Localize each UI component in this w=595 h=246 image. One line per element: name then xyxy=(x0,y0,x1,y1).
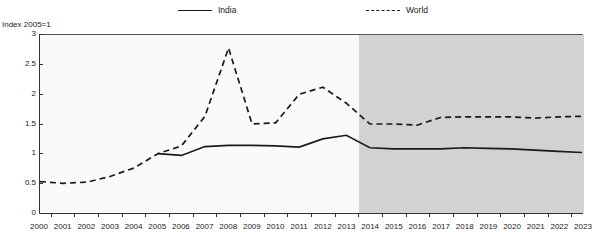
x-tick-mark xyxy=(122,213,123,217)
y-tick-label: 1.5 xyxy=(6,120,36,128)
x-tick-mark xyxy=(169,213,170,217)
y-tick-mark xyxy=(39,153,43,154)
plot-lines xyxy=(40,35,582,213)
series-line-india xyxy=(158,135,582,155)
x-tick-label: 2015 xyxy=(385,222,403,231)
x-tick-mark xyxy=(145,213,146,217)
x-tick-mark xyxy=(216,213,217,217)
x-tick-mark xyxy=(358,213,359,217)
x-tick-mark xyxy=(193,213,194,217)
x-tick-label: 2008 xyxy=(219,222,237,231)
series-line-world xyxy=(40,48,582,183)
x-tick-label: 2023 xyxy=(574,222,592,231)
x-tick-label: 2006 xyxy=(172,222,190,231)
x-tick-label: 2020 xyxy=(503,222,521,231)
x-tick-mark xyxy=(240,213,241,217)
y-tick-mark xyxy=(39,183,43,184)
x-tick-mark xyxy=(287,213,288,217)
x-tick-label: 2011 xyxy=(291,222,308,231)
x-tick-label: 2012 xyxy=(314,222,332,231)
y-tick-label: 1 xyxy=(6,149,36,157)
x-tick-mark xyxy=(524,213,525,217)
x-tick-label: 2007 xyxy=(196,222,214,231)
x-tick-label: 2005 xyxy=(148,222,166,231)
x-tick-mark xyxy=(264,213,265,217)
y-tick-mark xyxy=(39,64,43,65)
y-tick-mark xyxy=(39,124,43,125)
y-tick-label: 0.5 xyxy=(6,179,36,187)
x-tick-mark xyxy=(477,213,478,217)
y-tick-label: 0 xyxy=(6,209,36,217)
x-tick-mark xyxy=(98,213,99,217)
legend-swatch-solid-icon xyxy=(178,10,212,11)
chart-container: India World Index 2005=1 00.511.522.53 2… xyxy=(0,0,595,246)
x-tick-label: 2022 xyxy=(550,222,568,231)
x-tick-label: 2002 xyxy=(77,222,95,231)
x-tick-label: 2009 xyxy=(243,222,261,231)
x-tick-mark xyxy=(548,213,549,217)
legend-item-world: World xyxy=(366,2,428,18)
x-tick-label: 2021 xyxy=(527,222,545,231)
x-tick-mark xyxy=(500,213,501,217)
x-tick-mark xyxy=(429,213,430,217)
x-tick-mark xyxy=(453,213,454,217)
x-tick-label: 2018 xyxy=(456,222,474,231)
legend-item-india: India xyxy=(178,2,236,18)
chart-legend: India World xyxy=(0,2,595,18)
x-tick-label: 2019 xyxy=(479,222,497,231)
x-tick-label: 2004 xyxy=(125,222,143,231)
x-tick-mark xyxy=(406,213,407,217)
x-tick-label: 2010 xyxy=(267,222,285,231)
y-tick-mark xyxy=(39,213,43,214)
plot-area xyxy=(39,34,583,213)
y-tick-mark xyxy=(39,94,43,95)
y-tick-label: 2 xyxy=(6,90,36,98)
x-tick-mark xyxy=(571,213,572,217)
x-tick-label: 2016 xyxy=(409,222,427,231)
x-tick-mark xyxy=(335,213,336,217)
x-tick-label: 2013 xyxy=(338,222,356,231)
x-tick-label: 2003 xyxy=(101,222,119,231)
x-tick-mark xyxy=(311,213,312,217)
x-tick-label: 2000 xyxy=(30,222,48,231)
y-tick-mark xyxy=(39,34,43,35)
x-tick-mark xyxy=(51,213,52,217)
y-tick-label: 2.5 xyxy=(6,60,36,68)
x-tick-mark xyxy=(382,213,383,217)
legend-label-india: India xyxy=(218,2,236,18)
x-tick-label: 2001 xyxy=(54,222,72,231)
x-tick-mark xyxy=(74,213,75,217)
legend-swatch-dashed-icon xyxy=(366,10,400,11)
x-tick-label: 2017 xyxy=(432,222,450,231)
x-tick-label: 2014 xyxy=(361,222,379,231)
legend-label-world: World xyxy=(406,2,428,18)
y-axis-title: Index 2005=1 xyxy=(2,20,51,30)
y-tick-label: 3 xyxy=(6,30,36,38)
